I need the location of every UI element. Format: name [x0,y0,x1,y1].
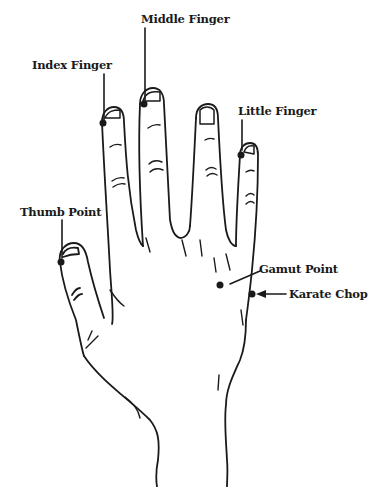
hand-illustration [0,0,378,487]
gamut-point [217,282,224,289]
label-index-finger: Index Finger [32,58,112,72]
middle-finger-point [141,101,148,108]
hand-diagram: Middle Finger Index Finger Little Finger… [0,0,378,487]
thumb-point [58,259,65,266]
label-gamut-point: Gamut Point [259,262,338,276]
label-karate-chop: Karate Chop [289,287,368,301]
index-finger-point [100,120,107,127]
karate-chop-point [249,291,256,298]
little-finger-point [238,152,245,159]
label-middle-finger: Middle Finger [141,12,230,26]
label-thumb-point: Thumb Point [20,205,101,219]
label-little-finger: Little Finger [238,104,316,118]
